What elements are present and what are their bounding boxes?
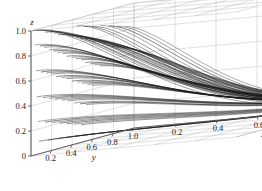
- grid-line-floor-y: [52, 131, 257, 150]
- tick-label-z: 0.8: [15, 51, 26, 61]
- grid-layer: [31, 0, 262, 156]
- axis-title-x: x: [260, 129, 262, 139]
- tick-label-z: 0: [22, 151, 26, 161]
- axis-title-z: z: [29, 17, 34, 27]
- grid-line-ceiling-x: [236, 0, 262, 12]
- grid-line-floor-x: [154, 117, 257, 145]
- axis-title-y: y: [91, 152, 96, 162]
- grid-line-ceiling-y: [52, 6, 257, 25]
- trajectory-curves: [33, 26, 262, 142]
- tick-label-z: 0.6: [15, 76, 26, 86]
- tick-label-y: 0.4: [66, 148, 77, 158]
- tick-label-x: 0.2: [172, 127, 183, 137]
- tick-label-z: 1.0: [15, 26, 26, 36]
- tick-label-z: 0.4: [15, 101, 26, 111]
- plot-canvas: 00.20.40.60.81.00.20.40.60.81.00.20.40.6…: [0, 0, 262, 191]
- tick-label-z: 0.2: [15, 126, 26, 136]
- axis-line-y: [31, 128, 134, 156]
- tick-label-y: 0.2: [45, 153, 56, 163]
- grid-line-wall-right-horizontal: [134, 34, 262, 53]
- tick-label-x: 0.4: [213, 123, 224, 133]
- tick-label-y: 1.0: [128, 131, 139, 141]
- figure-3d-line-plot: 00.20.40.60.81.00.20.40.60.81.00.20.40.6…: [0, 0, 262, 191]
- tick-label-y: 0.8: [107, 137, 118, 147]
- tick-label-x: 0.6: [254, 120, 262, 130]
- trajectory-curve: [109, 26, 262, 100]
